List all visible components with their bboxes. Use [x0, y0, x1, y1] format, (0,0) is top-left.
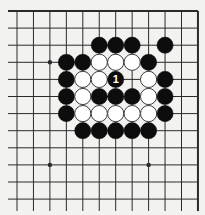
black-stone [58, 54, 74, 70]
white-stone-disc [124, 54, 140, 70]
white-stone-disc [141, 71, 157, 87]
black-stone [58, 106, 74, 122]
white-stone [141, 106, 157, 122]
black-stone-disc [108, 123, 124, 139]
white-stone [124, 54, 140, 70]
black-stone-disc [157, 88, 173, 104]
black-stone-disc [91, 37, 107, 53]
black-stone [108, 123, 124, 139]
black-stone [75, 54, 91, 70]
white-stone [141, 71, 157, 87]
black-stone [124, 123, 140, 139]
black-stone-disc [75, 54, 91, 70]
white-stone-disc [141, 88, 157, 104]
black-stone-disc [58, 106, 74, 122]
white-stone-disc [124, 106, 140, 122]
black-stone [58, 88, 74, 104]
black-stone-disc [141, 54, 157, 70]
white-stone [91, 106, 107, 122]
black-stone-disc [124, 123, 140, 139]
go-board-diagram: 1 [0, 0, 205, 215]
white-stone-disc [91, 71, 107, 87]
move-number-label: 1 [113, 73, 119, 85]
white-stone [75, 71, 91, 87]
white-stone [75, 106, 91, 122]
white-stone-disc [91, 106, 107, 122]
star-point [48, 163, 52, 167]
black-stone-disc [58, 54, 74, 70]
black-stone: 1 [108, 71, 124, 87]
white-stone-disc [108, 54, 124, 70]
black-stone-disc [157, 71, 173, 87]
black-stone [141, 54, 157, 70]
white-stone-disc [75, 71, 91, 87]
white-stone [141, 88, 157, 104]
black-stone [157, 88, 173, 104]
go-board-svg: 1 [0, 0, 205, 215]
black-stone-disc [157, 106, 173, 122]
white-stone [124, 106, 140, 122]
black-stone-disc [157, 37, 173, 53]
black-stone-disc [91, 88, 107, 104]
black-stone [91, 123, 107, 139]
black-stone-disc [58, 71, 74, 87]
black-stone-disc [124, 37, 140, 53]
black-stone [157, 106, 173, 122]
white-stone [91, 54, 107, 70]
black-stone [58, 71, 74, 87]
white-stone-disc [75, 106, 91, 122]
white-stone-disc [91, 54, 107, 70]
black-stone [91, 88, 107, 104]
white-stone [91, 71, 107, 87]
black-stone [91, 37, 107, 53]
white-stone [75, 88, 91, 104]
black-stone [141, 123, 157, 139]
black-stone [157, 37, 173, 53]
white-stone [108, 54, 124, 70]
white-stone-disc [108, 106, 124, 122]
black-stone [108, 37, 124, 53]
black-stone-disc [75, 123, 91, 139]
black-stone [108, 88, 124, 104]
white-stone-disc [141, 106, 157, 122]
black-stone-disc [108, 37, 124, 53]
black-stone [124, 37, 140, 53]
star-point [146, 163, 150, 167]
black-stone [124, 88, 140, 104]
white-stone-disc [75, 88, 91, 104]
black-stone-disc [108, 88, 124, 104]
black-stone-disc [58, 88, 74, 104]
white-stone [108, 106, 124, 122]
black-stone-disc [91, 123, 107, 139]
black-stone [75, 123, 91, 139]
black-stone [157, 71, 173, 87]
black-stone-disc [141, 123, 157, 139]
star-point [48, 60, 52, 64]
black-stone-disc [124, 88, 140, 104]
